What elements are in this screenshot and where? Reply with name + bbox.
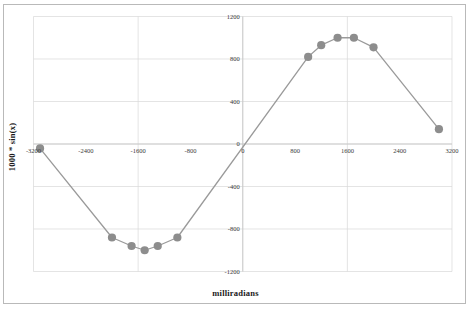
y-tick-label: 0 xyxy=(206,140,240,147)
y-tick-label: -400 xyxy=(206,183,240,190)
data-point-marker[interactable] xyxy=(141,246,149,254)
y-tick-label: 800 xyxy=(206,55,240,62)
chart-plot-svg xyxy=(0,0,471,310)
y-tick-label: 400 xyxy=(206,98,240,105)
data-point-marker[interactable] xyxy=(154,242,162,250)
data-point-marker[interactable] xyxy=(369,43,377,51)
x-tick-label: 3200 xyxy=(432,147,471,154)
x-tick-label: 0 xyxy=(223,147,263,154)
x-tick-label: -3200 xyxy=(14,147,54,154)
chart-container: -3200-2400-1600-8000800160024003200 1200… xyxy=(0,0,471,310)
data-point-marker[interactable] xyxy=(304,53,312,61)
x-tick-label: 2400 xyxy=(380,147,420,154)
y-tick-label: -800 xyxy=(206,225,240,232)
y-tick-label: 1200 xyxy=(206,13,240,20)
gridlines-group xyxy=(34,17,453,272)
data-point-marker[interactable] xyxy=(333,34,341,42)
x-tick-label: 1600 xyxy=(327,147,367,154)
data-point-marker[interactable] xyxy=(435,125,443,133)
x-tick-label: -1600 xyxy=(118,147,158,154)
x-tick-label: -2400 xyxy=(66,147,106,154)
x-axis-title: milliradians xyxy=(0,288,471,298)
data-point-marker[interactable] xyxy=(350,34,358,42)
data-point-marker[interactable] xyxy=(317,41,325,49)
y-tick-label: -1200 xyxy=(206,268,240,275)
y-axis-title: 1000 * sin(x) xyxy=(7,97,17,197)
data-point-marker[interactable] xyxy=(127,242,135,250)
data-point-marker[interactable] xyxy=(173,233,181,241)
x-tick-label: 800 xyxy=(275,147,315,154)
data-point-marker[interactable] xyxy=(108,233,116,241)
x-tick-label: -800 xyxy=(170,147,210,154)
